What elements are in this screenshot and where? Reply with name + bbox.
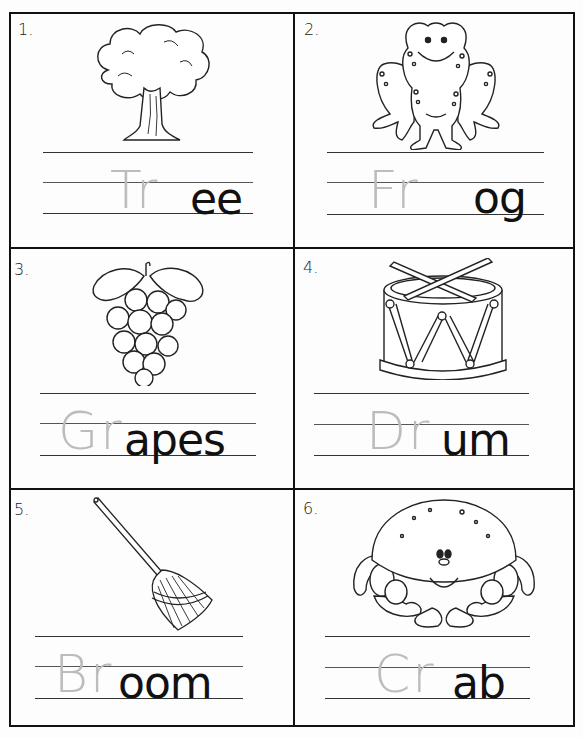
printed-word-ending: ee [190, 177, 242, 221]
writing-line-top [325, 636, 530, 637]
printed-word-ending: apes [124, 418, 225, 462]
frog-icon [368, 18, 504, 150]
item-number: 4. [303, 258, 318, 277]
writing-line-top [327, 152, 544, 153]
grid-divider-horizontal-1 [9, 247, 575, 249]
grid-divider-vertical [293, 12, 295, 727]
handwritten-letters: Cr [374, 648, 436, 700]
printed-word-ending: oom [118, 661, 212, 705]
item-number: 6. [303, 499, 318, 518]
writing-line-top [40, 393, 256, 394]
item-number: 1. [18, 20, 33, 39]
tree-icon [88, 18, 216, 146]
broom-icon [88, 496, 218, 632]
grid-divider-horizontal-2 [9, 488, 575, 490]
writing-line-top [43, 152, 253, 153]
printed-word-ending: og [473, 176, 526, 220]
printed-word-ending: ab [452, 661, 505, 705]
item-number: 3. [14, 260, 29, 279]
handwritten-letters: Br [54, 648, 113, 700]
handwritten-letters: Tr [110, 164, 160, 216]
writing-line-top [314, 393, 529, 394]
crab-icon [344, 496, 544, 630]
handwritten-letters: Dr [366, 405, 431, 457]
handwritten-letters: Gr [58, 405, 124, 457]
drum-icon [378, 258, 508, 380]
handwritten-letters: Fr [368, 164, 420, 216]
item-number: 5. [14, 500, 29, 519]
printed-word-ending: um [441, 418, 510, 462]
grapes-icon [88, 258, 208, 386]
item-number: 2. [304, 20, 319, 39]
writing-line-top [35, 636, 243, 637]
